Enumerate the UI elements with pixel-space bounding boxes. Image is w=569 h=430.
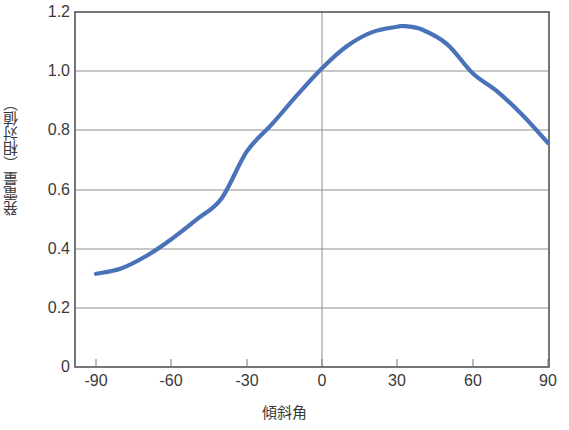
axis-tick-marks	[96, 359, 548, 367]
chart-figure: 発電量（相対値） 0 0.2 0.4 0.6 0.8 1.0 1.2 -90 -…	[0, 0, 569, 430]
plot-area	[0, 0, 569, 430]
gridlines	[75, 12, 549, 367]
